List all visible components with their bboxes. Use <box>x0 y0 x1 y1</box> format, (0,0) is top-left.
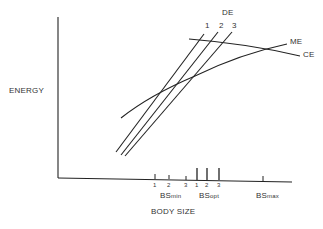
y-axis-label: ENERGY <box>9 86 44 95</box>
tick-label-bsmin-3: 3 <box>184 182 187 188</box>
tick-label-bsmin-1: 1 <box>153 182 156 188</box>
curve-de-2 <box>121 32 218 155</box>
x-axis-label: BODY SIZE <box>151 207 195 216</box>
tick-label-bsopt-3: 3 <box>217 182 220 188</box>
de-label-2: 2 <box>219 21 224 30</box>
curve-me <box>121 44 287 118</box>
x-axis <box>58 178 292 182</box>
ce-label: CE <box>303 50 315 59</box>
tick-label-bsopt-1: 1 <box>195 182 198 188</box>
me-label: ME <box>290 37 302 46</box>
bs-max-label: BSmax <box>256 191 279 200</box>
curve-de-3 <box>125 32 232 156</box>
de-label-1: 1 <box>205 21 210 30</box>
bs-opt-label: BSopt <box>199 191 219 200</box>
de-label-3: 3 <box>232 21 237 30</box>
tick-label-bsopt-2: 2 <box>205 182 208 188</box>
tick-label-bsmin-2: 2 <box>167 182 170 188</box>
bs-min-label: BSmin <box>160 191 181 200</box>
de-group-label: DE <box>222 8 234 17</box>
